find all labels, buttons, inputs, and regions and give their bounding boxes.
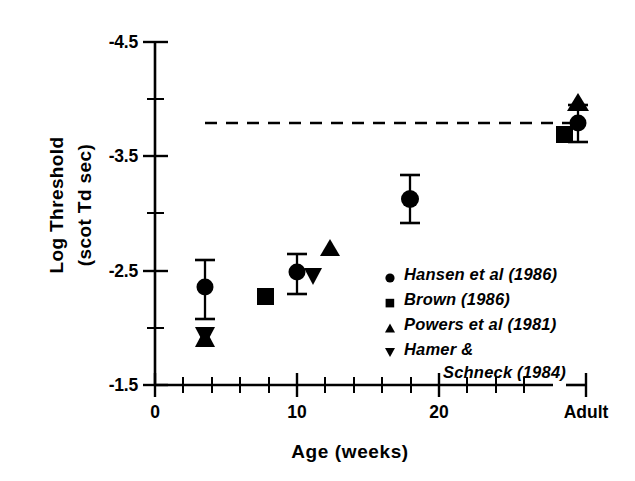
legend-label-brown: Brown (1986) [404,290,510,309]
y-axis [143,42,168,386]
data-point-brown-8wk [257,288,274,305]
y-axis-title-line2: (scot Td sec) [74,40,96,370]
x-tick-label-10: 10 [287,402,306,423]
data-point-hansen-4wk [195,260,215,319]
x-tick-label-adult: Adult [564,402,609,423]
legend-label-powers: Powers et al (1981) [404,315,556,334]
y-tick-label-1-5: -1.5 [76,375,138,396]
triangle-down-icon [382,343,398,359]
data-point-hamer-11wk [304,268,322,285]
legend-label-schneck: Schneck (1984) [443,363,566,382]
data-point-powers-12wk [320,239,340,256]
legend-label-hamer: Hamer & [404,340,473,359]
legend-label-hansen: Hansen et al (1986) [404,265,557,284]
scatter-plot-figure: -4.5 -3.5 -2.5 -1.5 0 10 20 Adult Age (w… [0,0,635,481]
data-point-brown-adult [556,126,573,143]
circle-icon [382,269,398,285]
triangle-up-icon [382,319,398,335]
square-icon [382,294,398,310]
data-point-hansen-18wk [400,175,420,223]
y-axis-title-line1: Log Threshold [46,40,68,370]
x-tick-label-20: 20 [429,402,448,423]
data-point-hansen-10wk [287,254,307,294]
x-axis-title: Age (weeks) [291,441,408,463]
x-tick-label-0: 0 [150,402,160,423]
